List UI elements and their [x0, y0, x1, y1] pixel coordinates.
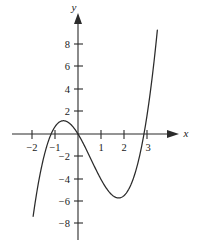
graph-figure: −2 −1 1 2 3 8 6 4 2 −2 −4 −6 −8 y x — [0, 0, 197, 241]
y-tick-label-2: 2 — [65, 106, 70, 117]
y-axis-label: y — [71, 1, 77, 13]
x-tick-label-1: 1 — [98, 142, 103, 153]
y-tick-label--2: −2 — [59, 151, 70, 162]
y-tick-label--4: −4 — [59, 174, 71, 185]
y-tick-label-4: 4 — [65, 84, 71, 95]
y-tick-label-6: 6 — [65, 61, 70, 72]
x-axis-arrowhead — [167, 130, 179, 138]
cubic-curve — [33, 30, 157, 216]
y-tick-label-8: 8 — [65, 39, 70, 50]
y-axis-arrowhead — [74, 13, 82, 24]
x-tick-label-3: 3 — [145, 142, 150, 153]
y-tick-label--8: −8 — [59, 218, 70, 229]
x-tick-label-2: 2 — [121, 142, 126, 153]
x-axis-label: x — [183, 127, 189, 139]
y-tick-label--6: −6 — [59, 196, 70, 207]
x-tick-label--2: −2 — [26, 142, 37, 153]
cubic-function-plot: −2 −1 1 2 3 8 6 4 2 −2 −4 −6 −8 y x — [0, 0, 197, 241]
